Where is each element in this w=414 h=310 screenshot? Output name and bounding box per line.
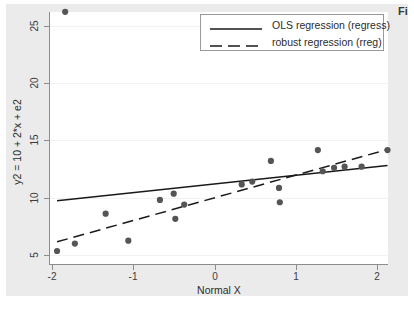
y-tick-label-text: 25 — [29, 20, 40, 31]
y-tick-label-text: 20 — [29, 77, 40, 88]
gridline-15 — [50, 140, 388, 141]
x-tick-mark-0 — [215, 265, 216, 270]
x-tick-label-neg1: -1 — [129, 271, 138, 282]
x-axis-line — [49, 264, 388, 265]
y-axis-line — [49, 12, 50, 264]
x-tick-mark-neg1 — [133, 265, 134, 270]
x-tick-mark-1 — [296, 265, 297, 270]
legend-key-solid-line — [208, 20, 264, 30]
y-tick-mark-25 — [44, 26, 49, 27]
y-axis-title: y2 = 10 + 2*x + e2 — [10, 72, 24, 212]
y-tick-mark-15 — [44, 140, 49, 141]
y-tick-label-text: 5 — [29, 252, 40, 258]
legend-key-dashed-line — [208, 37, 264, 47]
y-tick-mark-10 — [44, 198, 49, 199]
gridline-5 — [50, 255, 388, 256]
y-axis-title-text: y2 = 10 + 2*x + e2 — [11, 99, 23, 185]
y-tick-label-25: 25 — [26, 21, 42, 31]
y-tick-label-15: 15 — [26, 135, 42, 145]
chart-figure: 25 20 15 10 5 -2 -1 0 1 2 y2 = 10 + 2*x … — [0, 0, 414, 310]
y-tick-label-5: 5 — [26, 250, 42, 260]
y-tick-label-10: 10 — [26, 193, 42, 203]
legend[interactable]: OLS regression (regress) robust regressi… — [200, 14, 384, 51]
x-tick-mark-neg2 — [52, 265, 53, 270]
legend-item-robust[interactable]: robust regression (rreg) — [201, 33, 383, 51]
y-tick-mark-5 — [44, 255, 49, 256]
y-tick-label-20: 20 — [26, 78, 42, 88]
x-tick-label-1: 1 — [293, 271, 299, 282]
x-tick-label-2: 2 — [374, 271, 380, 282]
gridline-10 — [50, 198, 388, 199]
y-tick-label-text: 10 — [29, 192, 40, 203]
gridline-20 — [50, 83, 388, 84]
x-axis-title: Normal X — [197, 284, 241, 296]
y-tick-mark-20 — [44, 83, 49, 84]
legend-label-robust: robust regression (rreg) — [272, 36, 382, 48]
x-tick-mark-2 — [377, 265, 378, 270]
figure-caption-fragment: Fi — [398, 5, 408, 17]
x-tick-label-0: 0 — [212, 271, 218, 282]
legend-label-ols: OLS regression (regress) — [272, 19, 390, 31]
legend-item-ols[interactable]: OLS regression (regress) — [201, 16, 383, 34]
x-tick-label-neg2: -2 — [48, 271, 57, 282]
y-tick-label-text: 15 — [29, 134, 40, 145]
